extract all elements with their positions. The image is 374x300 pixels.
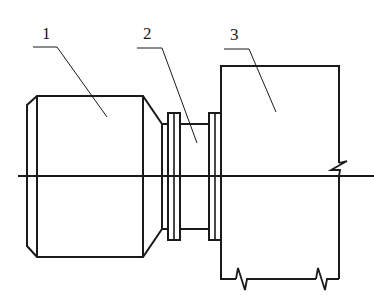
- part-label-2: 2: [143, 25, 152, 42]
- part-label-3: 3: [230, 26, 239, 43]
- leader-1: [33, 47, 107, 117]
- assembly-diagram: [0, 0, 374, 300]
- leader-3: [224, 49, 276, 112]
- part-3-housing: [221, 66, 347, 290]
- part-label-1: 1: [42, 25, 51, 42]
